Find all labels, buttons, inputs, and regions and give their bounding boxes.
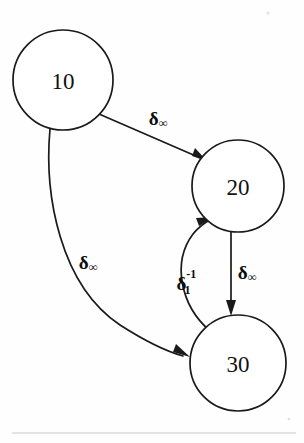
edge-10-to-30-path: [49, 129, 183, 356]
edge-label-10-to-30: δ∞: [79, 252, 98, 275]
edge-label-20-to-30: δ∞: [238, 262, 257, 285]
state-transition-diagram: 10 20 30 δ∞ δ∞ δ-11 δ∞: [0, 0, 304, 443]
edge-label-10-to-20: δ∞: [149, 108, 168, 131]
scan-speck-top-right: [266, 11, 269, 14]
edge-label-30-to-20-subscript: 1: [185, 283, 191, 297]
edge-label-10-to-30-subscript: ∞: [89, 260, 98, 274]
node-30-label: 30: [227, 352, 250, 377]
edge-label-10-to-30-base: δ: [79, 252, 89, 273]
node-20[interactable]: 20: [192, 140, 284, 232]
diagram-page: 10 20 30 δ∞ δ∞ δ-11 δ∞: [0, 0, 304, 443]
edge-label-30-to-20-superscript: -1: [186, 267, 196, 281]
node-30[interactable]: 30: [190, 315, 286, 411]
edge-20-to-30: [226, 232, 236, 316]
node-10[interactable]: 10: [13, 30, 113, 130]
node-20-label: 20: [227, 175, 250, 200]
edge-label-20-to-30-base: δ: [238, 262, 248, 283]
edge-label-10-to-20-subscript: ∞: [159, 116, 168, 130]
edge-label-20-to-30-subscript: ∞: [248, 270, 257, 284]
node-10-label: 10: [52, 69, 75, 94]
scan-speck-bottom-right: [288, 418, 291, 421]
edge-label-10-to-20-base: δ: [149, 108, 159, 129]
edge-20-to-30-arrowhead: [226, 300, 236, 316]
edge-label-30-to-20: δ-11: [176, 267, 196, 297]
edge-10-to-30: [49, 129, 190, 357]
